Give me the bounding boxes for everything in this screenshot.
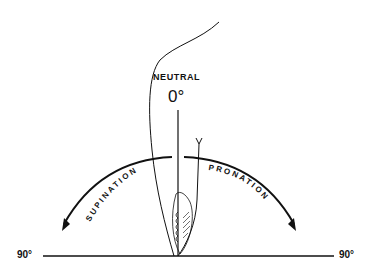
forearm-outline-left	[150, 22, 219, 256]
supination-arc	[64, 157, 172, 224]
left-90-degree-label: 90°	[17, 250, 32, 260]
zero-degree-label: 0°	[168, 88, 184, 105]
y-mark	[196, 138, 202, 144]
pronation-label: PRONATION	[208, 163, 271, 202]
pronation-arc	[184, 157, 294, 224]
neutral-label: NEUTRAL	[153, 73, 200, 82]
forearm-rotation-diagram: SUPINATION PRONATION	[0, 0, 373, 278]
hatching	[183, 212, 190, 238]
hand-sketch	[173, 192, 193, 254]
right-90-degree-label: 90°	[339, 250, 354, 260]
svg-text:PRONATION: PRONATION	[208, 163, 271, 202]
